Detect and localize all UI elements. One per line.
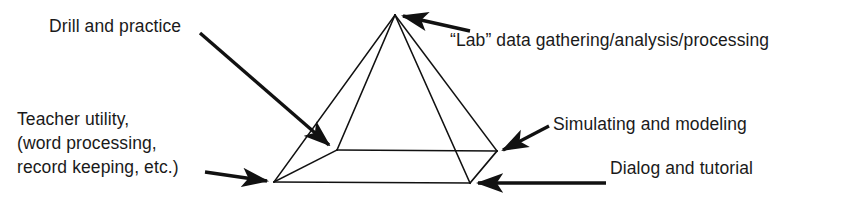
label-dialog-and-tutorial: Dialog and tutorial	[610, 156, 753, 180]
label-drill-and-practice: Drill and practice	[49, 14, 181, 38]
callout-arrow-drill-and-practice	[200, 33, 329, 145]
edge-apex-to-front-left	[274, 15, 395, 182]
callout-arrow-teacher-utility	[205, 172, 267, 181]
label-simulating-and-modeling: Simulating and modeling	[553, 112, 747, 136]
label-teacher-utility-line-1: Teacher utility,	[17, 107, 179, 131]
pyramid-diagram-figure: Drill and practice “Lab” data gathering/…	[0, 0, 846, 202]
label-lab-data-gathering: “Lab” data gathering/analysis/processing	[450, 28, 769, 52]
edge-base-left	[274, 150, 337, 182]
label-teacher-utility: Teacher utility, (word processing, recor…	[17, 107, 179, 179]
edge-base-right	[470, 151, 497, 183]
callout-arrow-simulating-and-modeling	[503, 126, 549, 150]
label-teacher-utility-line-3: record keeping, etc.)	[17, 155, 179, 179]
label-teacher-utility-line-2: (word processing,	[17, 131, 179, 155]
edge-base-front	[274, 182, 470, 183]
edge-base-back	[337, 150, 497, 151]
